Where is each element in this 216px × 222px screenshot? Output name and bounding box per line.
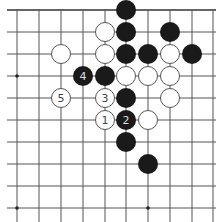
white-stone-move-5: 5 xyxy=(52,89,71,108)
move-number-label: 5 xyxy=(58,92,65,105)
white-stone xyxy=(161,89,180,108)
black-stone xyxy=(116,44,136,64)
white-stone xyxy=(161,45,180,64)
star-point xyxy=(15,74,19,78)
black-stone xyxy=(182,44,202,64)
black-stone-move-4: 4 xyxy=(73,66,93,86)
black-stone xyxy=(116,132,136,152)
black-stone xyxy=(116,0,136,20)
star-point xyxy=(15,206,19,210)
white-stone-move-1: 1 xyxy=(96,111,115,130)
star-point xyxy=(146,206,150,210)
move-number-label: 1 xyxy=(102,114,109,127)
move-number-label: 3 xyxy=(102,92,109,105)
stones: 45312 xyxy=(52,0,203,174)
black-stone xyxy=(138,154,158,174)
white-stone xyxy=(96,45,115,64)
white-stone xyxy=(52,45,71,64)
white-stone-move-3: 3 xyxy=(96,89,115,108)
black-stone xyxy=(116,22,136,42)
move-number-label: 4 xyxy=(80,70,87,83)
white-stone xyxy=(117,67,136,86)
black-stone-move-2: 2 xyxy=(116,110,136,130)
black-stone xyxy=(160,22,180,42)
white-stone xyxy=(139,67,158,86)
white-stone xyxy=(139,111,158,130)
go-board: 45312 xyxy=(0,0,216,222)
white-stone xyxy=(96,23,115,42)
white-stone xyxy=(161,67,180,86)
black-stone xyxy=(138,44,158,64)
black-stone xyxy=(95,66,115,86)
move-number-label: 2 xyxy=(123,114,130,127)
black-stone xyxy=(116,88,136,108)
